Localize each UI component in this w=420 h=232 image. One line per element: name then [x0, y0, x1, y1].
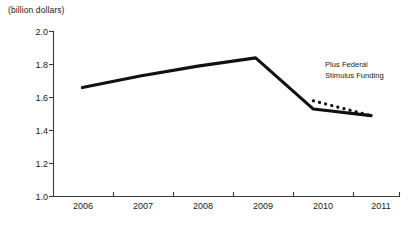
y-tick-label-2-0: 2.0	[18, 27, 48, 37]
y-tick-label-1-4: 1.4	[18, 126, 48, 136]
x-tick-label-2007: 2007	[120, 201, 166, 211]
x-tick-label-2009: 2009	[240, 201, 286, 211]
y-tick-label-1-8: 1.8	[18, 60, 48, 70]
y-tick-label-1-2: 1.2	[18, 159, 48, 169]
stimulus-annotation-line1: Plus Federal	[325, 60, 384, 71]
x-tick-label-2011: 2011	[358, 201, 404, 211]
chart-canvas	[0, 0, 420, 232]
y-tick-label-1-0: 1.0	[18, 192, 48, 202]
x-tick-label-2006: 2006	[60, 201, 106, 211]
chart-container: (billion dollars)	[0, 0, 420, 232]
x-tick-label-2008: 2008	[180, 201, 226, 211]
stimulus-annotation: Plus Federal Stimulus Funding	[325, 60, 384, 81]
y-tick-label-1-6: 1.6	[18, 93, 48, 103]
x-axis-ticks	[114, 192, 400, 197]
x-tick-label-2010: 2010	[300, 201, 346, 211]
stimulus-annotation-line2: Stimulus Funding	[325, 71, 384, 82]
y-axis-ticks	[49, 32, 54, 197]
